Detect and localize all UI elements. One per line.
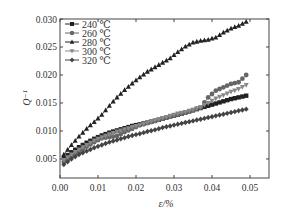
y-tick-label: 0.015 [36, 98, 58, 108]
legend-label: 320 ℃ [82, 55, 111, 66]
y-tick-label: 0.010 [36, 126, 58, 136]
y-tick-label: 0.030 [36, 15, 58, 25]
x-tick-label: 0.01 [90, 183, 107, 193]
x-axis-label: ε/% [158, 198, 173, 209]
y-axis-label: Q⁻¹ [21, 90, 32, 106]
q-inverse-vs-strain-chart: 0.000.010.020.030.040.05 0.0050.0100.015… [0, 0, 288, 215]
y-tick-label: 0.025 [36, 42, 58, 52]
x-tick-label: 0.05 [242, 183, 259, 193]
x-tick-label: 0.02 [128, 183, 145, 193]
x-tick-label: 0.04 [204, 183, 221, 193]
legend: 240 ℃260 ℃280 ℃300 ℃320 ℃ [65, 19, 111, 66]
y-tick-label: 0.020 [36, 70, 58, 80]
y-tick-label: 0.005 [36, 154, 58, 164]
x-tick-label: 0.03 [166, 183, 183, 193]
x-tick-label: 0.00 [52, 183, 69, 193]
